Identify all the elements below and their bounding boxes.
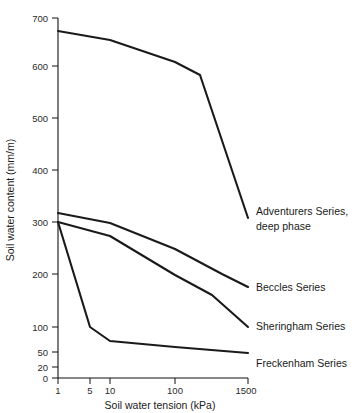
series-line-sheringham xyxy=(58,222,248,327)
soil-water-retention-chart: 700 600 500 400 300 200 100 50 20 0 1 5 … xyxy=(0,0,355,413)
y-tick-label-600: 600 xyxy=(32,61,48,72)
series-label-freckenham: Freckenham Series xyxy=(256,357,347,369)
series-label-adventurers-line1: Adventurers Series, xyxy=(256,205,348,217)
y-axis-title: Soil water content (mm/m) xyxy=(4,139,16,262)
series-label-beccles: Beccles Series xyxy=(256,281,325,293)
series-line-beccles xyxy=(58,213,248,287)
series-line-freckenham xyxy=(58,222,248,353)
series-line-adventurers xyxy=(58,31,248,218)
x-tick-label-10: 10 xyxy=(105,385,116,396)
y-tick-label-300: 300 xyxy=(32,217,48,228)
x-tick-label-5: 5 xyxy=(87,385,92,396)
y-tick-label-20: 20 xyxy=(37,362,48,373)
x-axis-title: Soil water tension (kPa) xyxy=(105,399,216,411)
series-label-sheringham: Sheringham Series xyxy=(256,320,345,332)
x-tick-label-1500: 1500 xyxy=(235,385,256,396)
y-tick-label-50: 50 xyxy=(37,347,48,358)
y-tick-label-400: 400 xyxy=(32,165,48,176)
y-tick-label-0: 0 xyxy=(43,373,48,384)
x-axis: 1 5 10 100 1500 xyxy=(55,378,256,396)
y-tick-label-200: 200 xyxy=(32,269,48,280)
series-labels: Adventurers Series, deep phase Beccles S… xyxy=(256,205,348,369)
series-label-adventurers-line2: deep phase xyxy=(256,220,311,232)
x-tick-label-100: 100 xyxy=(167,385,183,396)
y-tick-label-100: 100 xyxy=(32,322,48,333)
chart-canvas: 700 600 500 400 300 200 100 50 20 0 1 5 … xyxy=(0,0,355,413)
series-lines xyxy=(58,31,248,353)
x-tick-label-1: 1 xyxy=(55,385,60,396)
y-axis: 700 600 500 400 300 200 100 50 20 0 xyxy=(32,13,58,384)
y-tick-label-500: 500 xyxy=(32,113,48,124)
y-tick-label-700: 700 xyxy=(32,13,48,24)
